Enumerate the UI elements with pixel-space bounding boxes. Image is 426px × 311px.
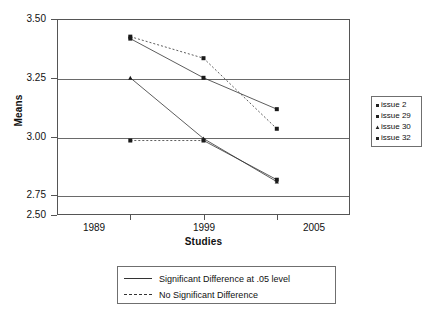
square-marker-icon (275, 127, 279, 131)
x-tick-2005 (277, 215, 278, 220)
x-tick-label-1999: 1999 (174, 222, 234, 233)
square-marker-icon (275, 178, 279, 182)
series-line-segment (130, 37, 203, 59)
series-legend: issue 2 issue 29 issue 30 issue 32 (371, 96, 422, 147)
legend-label-issue-30: issue 30 (381, 122, 411, 132)
legend-label-issue-32: issue 32 (381, 133, 411, 143)
y-tick-label-2-50: 2.50 (2, 210, 46, 220)
series-line-segment (130, 39, 203, 78)
square-marker-icon (275, 107, 279, 111)
series-line-segment (204, 141, 277, 180)
legend-item-issue-30[interactable]: issue 30 (375, 122, 419, 132)
linestyle-legend-row-significant: Significant Difference at .05 level (124, 272, 329, 285)
x-tick-label-2005: 2005 (284, 222, 344, 233)
square-marker-icon (128, 37, 132, 41)
y-tick-label-3-25: 3.25 (2, 73, 46, 83)
triangle-marker-icon (128, 76, 132, 80)
legend-item-issue-29[interactable]: issue 29 (375, 111, 419, 121)
legend-item-issue-2[interactable]: issue 2 (375, 100, 419, 110)
series-plot (57, 19, 350, 215)
dashed-line-icon (124, 294, 152, 296)
y-tick-label-2-75: 2.75 (2, 190, 46, 200)
series-line-segment (130, 78, 203, 139)
linestyle-label-significant: Significant Difference at .05 level (159, 273, 290, 285)
square-marker-icon (202, 76, 206, 80)
square-marker-icon (202, 139, 206, 143)
legend-item-issue-32[interactable]: issue 32 (375, 133, 419, 143)
square-marker-icon (375, 100, 381, 110)
y-tick-label-3-00: 3.00 (2, 132, 46, 142)
x-tick-label-1989: 1989 (64, 222, 124, 233)
x-tick-1989 (130, 215, 131, 220)
linestyle-label-nonsignificant: No Significant Difference (159, 289, 258, 301)
y-tick-2-50 (51, 215, 57, 216)
triangle-marker-icon (375, 122, 381, 132)
series-line-segment (204, 78, 277, 109)
x-axis-title: Studies (57, 236, 350, 247)
x-tick-1999 (204, 215, 205, 220)
y-axis-title: Means (13, 81, 24, 141)
solid-line-icon (124, 278, 152, 280)
y-tick-label-3-50: 3.50 (2, 14, 46, 24)
linestyle-legend-row-nonsignificant: No Significant Difference (124, 288, 329, 301)
legend-label-issue-29: issue 29 (381, 111, 411, 121)
linestyle-legend: Significant Difference at .05 level No S… (117, 266, 336, 304)
square-marker-icon (375, 133, 381, 143)
square-marker-icon (202, 56, 206, 60)
square-marker-icon (375, 111, 381, 121)
square-marker-icon (128, 139, 132, 143)
legend-label-issue-2: issue 2 (381, 100, 406, 110)
chart-container: 3.50 3.25 3.00 2.75 2.50 Means 1989 1999… (0, 0, 426, 311)
